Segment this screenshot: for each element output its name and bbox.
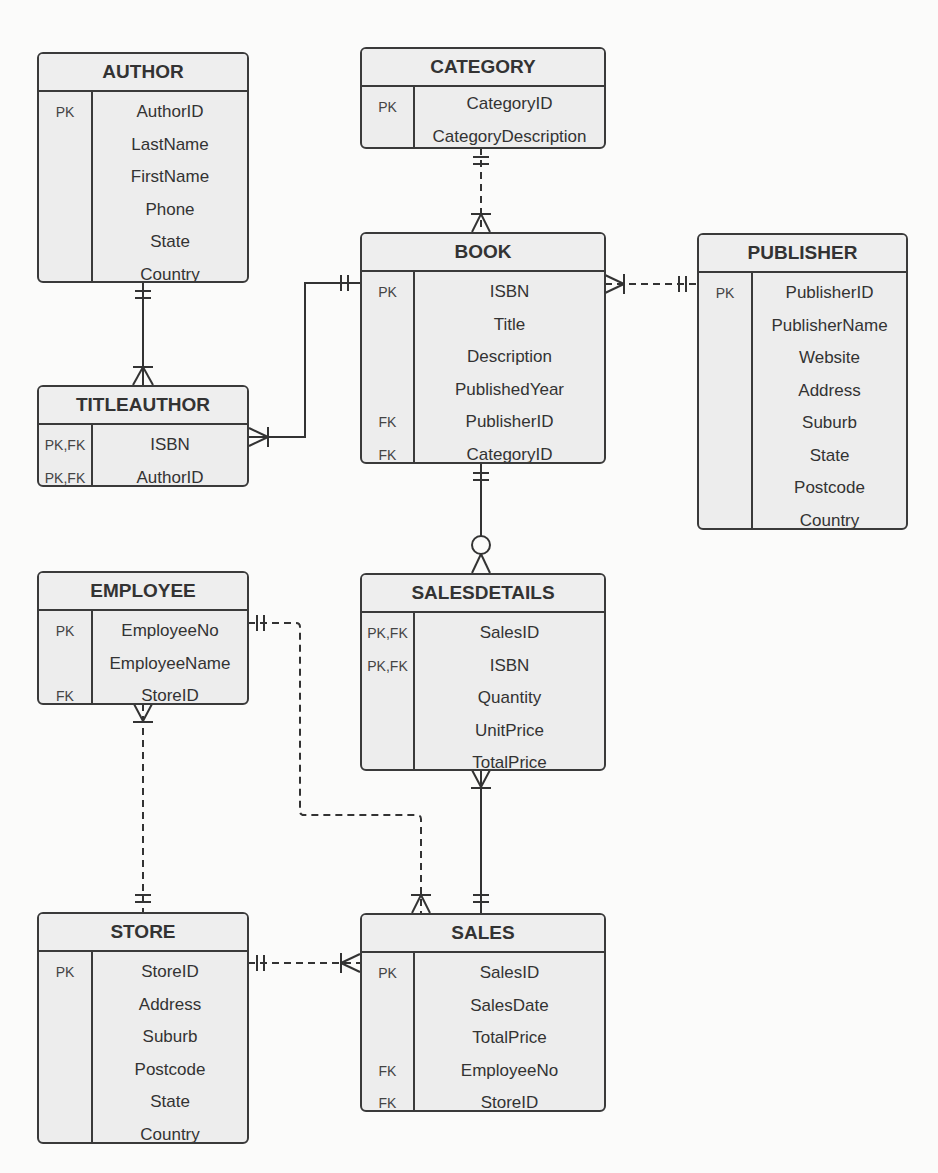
attribute: Website [753,342,906,375]
entity-title: SALES [362,915,604,953]
attribute: CategoryDescription [415,121,604,150]
attribute: State [93,1086,247,1119]
attribute: Address [753,375,906,408]
attribute: PublisherID [753,277,906,310]
key-label: PK [362,957,413,990]
entity-salesdetails[interactable]: SALESDETAILS PK,FK PK,FK SalesID ISBN Qu… [360,573,606,771]
entity-category[interactable]: CATEGORY PK CategoryID CategoryDescripti… [360,47,606,149]
key-label: PK,FK [39,462,91,488]
entity-title: SALESDETAILS [362,575,604,613]
key-label: PK,FK [39,429,91,462]
attribute: LastName [93,129,247,162]
attribute: Country [753,505,906,531]
key-label [699,342,751,375]
attribute: Country [93,259,247,284]
key-label [39,1086,91,1119]
attribute: SalesID [415,957,604,990]
entity-title: CATEGORY [362,49,604,87]
entity-publisher[interactable]: PUBLISHER PK PublisherID PublisherName W… [697,233,908,530]
key-label [362,747,413,771]
attribute: State [753,440,906,473]
rel-author-titleauthor [133,282,153,385]
attribute: Address [93,989,247,1022]
key-label [699,310,751,343]
entity-book[interactable]: BOOK PK FK FK ISBN Title Description Pub… [360,232,606,464]
attribute: StoreID [93,956,247,989]
key-label [699,440,751,473]
entity-title: AUTHOR [39,54,247,92]
entity-author[interactable]: AUTHOR PK AuthorID LastName FirstName Ph… [37,52,249,283]
key-label: FK [362,1055,413,1088]
key-label [362,715,413,748]
attribute: Description [415,341,604,374]
rel-book-salesdetails [472,463,490,573]
key-label: PK [699,277,751,310]
key-label: FK [362,1087,413,1112]
key-label [362,124,413,150]
key-label: PK,FK [362,617,413,650]
key-label [362,341,413,374]
attribute: EmployeeNo [93,615,247,648]
attribute: StoreID [415,1087,604,1112]
attribute: SalesDate [415,990,604,1023]
key-label [39,129,91,162]
entity-sales[interactable]: SALES PK FK FK SalesID SalesDate TotalPr… [360,913,606,1112]
attribute: TotalPrice [415,747,604,771]
attribute: EmployeeName [93,648,247,681]
rel-store-employee [133,704,153,913]
key-label [39,226,91,259]
entity-title: PUBLISHER [699,235,906,273]
key-label [699,505,751,531]
key-label: PK [39,956,91,989]
key-label [39,1054,91,1087]
key-label [39,1119,91,1145]
attribute: ISBN [415,276,604,309]
attribute: State [93,226,247,259]
attribute: SalesID [415,617,604,650]
attribute: PublisherID [415,406,604,439]
entity-title: EMPLOYEE [39,573,247,611]
key-label: FK [362,439,413,465]
rel-store-sales [248,953,360,973]
attribute: TotalPrice [415,1022,604,1055]
er-diagram-canvas: AUTHOR PK AuthorID LastName FirstName Ph… [0,0,938,1173]
entity-title: BOOK [362,234,604,272]
key-label [39,194,91,227]
rel-publisher-book [605,274,697,294]
attribute: Suburb [753,407,906,440]
attribute: CategoryID [415,439,604,465]
key-label: PK [362,91,413,124]
attribute: ISBN [415,650,604,683]
key-label [362,374,413,407]
attribute: PublisherName [753,310,906,343]
entity-title: TITLEAUTHOR [39,387,247,425]
key-label: FK [362,406,413,439]
attribute: UnitPrice [415,715,604,748]
key-label [39,259,91,284]
attribute: Quantity [415,682,604,715]
key-label: PK [362,276,413,309]
attribute: StoreID [93,680,247,705]
key-label [362,990,413,1023]
entity-store[interactable]: STORE PK StoreID Address Suburb Postcode… [37,912,249,1144]
key-label: PK [39,96,91,129]
entity-employee[interactable]: EMPLOYEE PK FK EmployeeNo EmployeeName S… [37,571,249,705]
attribute: Country [93,1119,247,1145]
attribute: Postcode [753,472,906,505]
rel-category-book [471,148,491,232]
key-label: PK [39,615,91,648]
rel-sales-salesdetails [471,770,491,913]
attribute: CategoryID [415,88,604,121]
entity-titleauthor[interactable]: TITLEAUTHOR PK,FK PK,FK ISBN AuthorID [37,385,249,487]
key-label [362,682,413,715]
key-label [39,161,91,194]
attribute: AuthorID [93,462,247,488]
key-label [39,989,91,1022]
key-label [39,648,91,681]
attribute: Postcode [93,1054,247,1087]
key-label: PK,FK [362,650,413,683]
key-label: FK [39,680,91,705]
key-label [699,375,751,408]
attribute: Phone [93,194,247,227]
key-label [39,1021,91,1054]
